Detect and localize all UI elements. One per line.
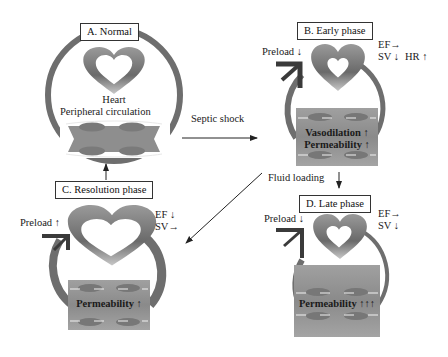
heart-label: Heart bbox=[82, 94, 146, 106]
panel-b-sv: SV ↓ bbox=[378, 51, 399, 63]
vessel-icon bbox=[60, 120, 170, 158]
panel-d-permeability: Permeability ↑↑↑ bbox=[294, 298, 380, 310]
septic-shock-label: Septic shock bbox=[191, 113, 244, 125]
panel-d bbox=[276, 214, 387, 337]
panel-c-ef: EF ↓ bbox=[155, 209, 175, 221]
panel-d-title: D. Late phase bbox=[299, 195, 371, 213]
panel-a-title: A. Normal bbox=[80, 23, 139, 41]
panel-c-sv: SV→ bbox=[155, 221, 179, 233]
panel-b-preload: Preload ↓ bbox=[262, 46, 302, 58]
fluid-loading-label: Fluid loading bbox=[268, 172, 324, 184]
peripheral-circulation-label: Peripheral circulation bbox=[60, 106, 151, 118]
heart-icon bbox=[311, 44, 365, 91]
heart-icon bbox=[80, 42, 148, 98]
panel-b-permeability: Permeability ↑ bbox=[296, 139, 378, 151]
arrow-d-to-c bbox=[186, 173, 262, 243]
heart-icon bbox=[68, 205, 156, 266]
panel-d-sv: SV ↓ bbox=[378, 220, 399, 232]
panel-b-title: B. Early phase bbox=[297, 22, 373, 40]
panel-d-preload: Preload ↓ bbox=[264, 213, 304, 225]
panel-c-permeability: Permeability ↑ bbox=[68, 298, 150, 310]
panel-d-ef: EF→ bbox=[378, 208, 401, 220]
panel-b-ef: EF→ bbox=[378, 39, 401, 51]
panel-c-preload: Preload ↑ bbox=[20, 217, 60, 229]
panel-c bbox=[42, 205, 162, 330]
panel-b-vasodilation: Vasodilation ↑ bbox=[296, 127, 378, 139]
heart-icon bbox=[313, 214, 367, 259]
panel-b-hr: HR ↑ bbox=[405, 51, 427, 63]
panel-c-title: C. Resolution phase bbox=[55, 181, 153, 199]
